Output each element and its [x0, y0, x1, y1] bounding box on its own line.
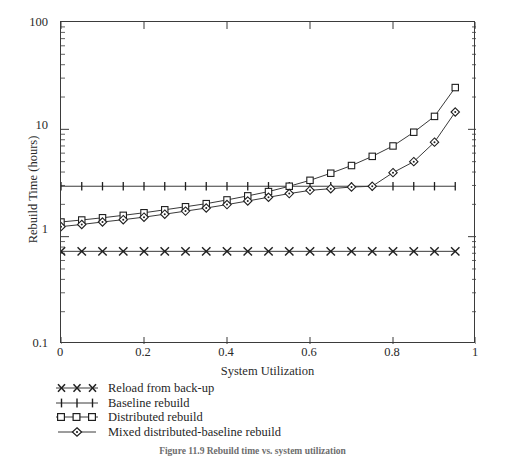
legend-label-reload-from-back-up: Reload from back-up	[100, 382, 214, 395]
legend-label-mixed-distributed-baseline-rebuild: Mixed distributed-baseline rebuild	[100, 426, 281, 439]
legend-item-reload-from-back-up[interactable]: Reload from back-up	[54, 381, 384, 396]
plot-area	[60, 21, 475, 343]
chart-legend: Reload from back-up Baseline rebuild	[54, 381, 384, 439]
legend-item-baseline-rebuild[interactable]: Baseline rebuild	[54, 396, 384, 411]
xtick-label-0.8: 0.8	[384, 346, 400, 359]
legend-item-mixed-distributed-baseline-rebuild[interactable]: Mixed distributed-baseline rebuild	[54, 425, 384, 440]
legend-marker-square-icon	[54, 410, 100, 424]
figure-root: 100 10 1 0.1 0 0.2 0.4 0.6 0.8 1 Rebuild…	[0, 0, 505, 457]
x-axis-title: System Utilization	[60, 364, 475, 379]
series-0	[61, 247, 459, 255]
legend-label-distributed-rebuild: Distributed rebuild	[100, 411, 203, 424]
series-1	[61, 182, 455, 190]
legend-item-distributed-rebuild[interactable]: Distributed rebuild	[54, 410, 384, 425]
figure-caption: Figure 11.9 Rebuild time vs. system util…	[0, 446, 505, 456]
series-2	[61, 84, 458, 225]
legend-marker-plus-icon	[54, 396, 100, 410]
legend-marker-diamond-icon	[54, 425, 100, 439]
y-axis-title: Rebuild Time (hours)	[26, 95, 41, 285]
legend-label-baseline-rebuild: Baseline rebuild	[100, 397, 190, 410]
xtick-label-0.4: 0.4	[218, 346, 234, 359]
xtick-label-0.6: 0.6	[301, 346, 317, 359]
xtick-label-0.2: 0.2	[135, 346, 151, 359]
xtick-label-1: 1	[472, 346, 478, 359]
legend-marker-x-icon	[54, 381, 100, 395]
chart-canvas	[61, 22, 476, 344]
ytick-label-0.1: 0.1	[0, 337, 54, 350]
xtick-label-0: 0	[57, 346, 63, 359]
ytick-label-100: 100	[0, 16, 54, 29]
